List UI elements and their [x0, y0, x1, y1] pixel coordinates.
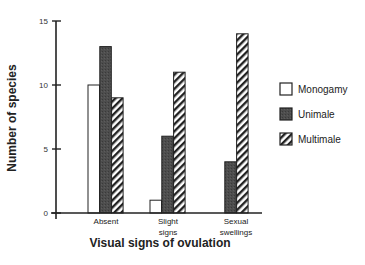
legend-label-monogamy: Monogamy	[298, 84, 347, 95]
bar-monogamy-1	[150, 200, 162, 213]
legend-swatch-monogamy	[280, 83, 292, 95]
y-tick-label: 10	[39, 81, 48, 90]
bar-unimale-1	[162, 136, 174, 213]
bar-chart: 051015 AbsentSlightsignsSexualswellings …	[0, 0, 365, 265]
legend-label-multimale: Multimale	[298, 134, 341, 145]
bar-unimale-2	[225, 162, 237, 213]
x-category-label: Absent	[94, 217, 120, 226]
bar-monogamy-0	[88, 85, 100, 213]
bar-multimale-1	[174, 72, 186, 213]
legend-label-unimale: Unimale	[298, 109, 335, 120]
x-category-label: Sexual	[224, 217, 249, 226]
legend: MonogamyUnimaleMultimale	[280, 83, 347, 145]
bars	[88, 34, 248, 213]
x-axis: AbsentSlightsignsSexualswellings	[51, 213, 262, 237]
y-tick-label: 15	[39, 17, 48, 26]
y-axis-title: Number of species	[5, 64, 19, 172]
bar-unimale-0	[100, 47, 112, 213]
x-category-label: Slight	[158, 217, 179, 226]
bar-multimale-2	[237, 34, 249, 213]
legend-swatch-unimale	[280, 108, 292, 120]
y-tick-label: 0	[44, 209, 49, 218]
y-axis: 051015	[39, 17, 61, 219]
legend-swatch-multimale	[280, 133, 292, 145]
bar-multimale-0	[112, 98, 124, 213]
x-axis-title: Visual signs of ovulation	[89, 236, 230, 250]
y-tick-label: 5	[44, 145, 49, 154]
